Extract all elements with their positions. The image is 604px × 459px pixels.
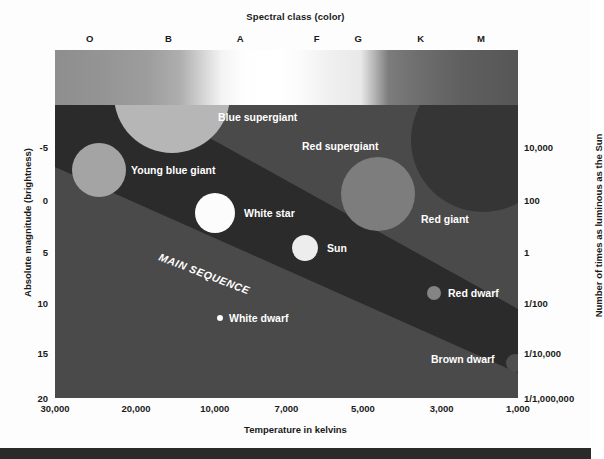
spectral-class-F: F <box>314 33 320 44</box>
top-axis-title: Spectral class (color) <box>0 11 591 22</box>
y-right-tick-2: 1 <box>524 246 594 257</box>
x-tick-5: 3,000 <box>430 403 454 414</box>
x-tick-0: 30,000 <box>40 403 69 414</box>
blue-supergiant-label: Blue supergiant <box>218 111 298 123</box>
brown-dwarf-label: Brown dwarf <box>431 353 495 365</box>
red-dwarf-label: Red dwarf <box>448 287 499 299</box>
young-blue-giant-label: Young blue giant <box>131 164 216 176</box>
right-axis-title: Number of times as luminous as the Sun <box>593 116 604 336</box>
bottom-axis-title: Temperature in kelvins <box>0 424 591 435</box>
white-star-marker <box>195 193 235 233</box>
y-right-tick-3: 1/100 <box>524 297 594 308</box>
y-right-tick-0: 10,000 <box>524 142 594 153</box>
spectral-class-O: O <box>86 33 93 44</box>
bottom-border-bar <box>0 448 591 459</box>
white-star-label: White star <box>244 207 295 219</box>
sun-label: Sun <box>327 242 347 254</box>
x-tick-1: 20,000 <box>121 403 150 414</box>
x-tick-6: 1,000 <box>506 403 530 414</box>
spectral-class-B: B <box>165 33 172 44</box>
y-right-tick-1: 100 <box>524 195 594 206</box>
y-right-tick-5: 1/1,000,000 <box>524 393 594 404</box>
spectral-class-M: M <box>477 33 485 44</box>
spectral-class-A: A <box>237 33 244 44</box>
spectral-color-band <box>55 50 518 105</box>
red-supergiant-label: Red supergiant <box>302 140 379 152</box>
red-giant-label: Red giant <box>421 213 469 225</box>
x-tick-4: 5,000 <box>351 403 375 414</box>
red-dwarf-marker <box>427 286 441 300</box>
spectral-class-G: G <box>355 33 362 44</box>
left-axis-title: Absolute magnitude (brightness) <box>22 123 33 323</box>
red-giant-marker <box>341 157 415 231</box>
young-blue-giant-marker <box>72 143 126 197</box>
x-tick-2: 10,000 <box>200 403 229 414</box>
plot-area: Blue supergiantYoung blue giantRed super… <box>55 105 518 398</box>
x-tick-3: 7,000 <box>275 403 299 414</box>
white-dwarf-marker <box>217 315 223 321</box>
spectral-class-K: K <box>417 33 424 44</box>
y-left-tick-4: 15 <box>4 347 48 358</box>
spectral-class-axis: OBAFGKM <box>55 33 518 47</box>
sun-marker <box>292 235 318 261</box>
y-right-tick-4: 1/10,000 <box>524 347 594 358</box>
white-dwarf-label: White dwarf <box>229 312 289 324</box>
plot-svg: Blue supergiantYoung blue giantRed super… <box>55 105 518 398</box>
y-left-tick-5: 20 <box>4 393 48 404</box>
